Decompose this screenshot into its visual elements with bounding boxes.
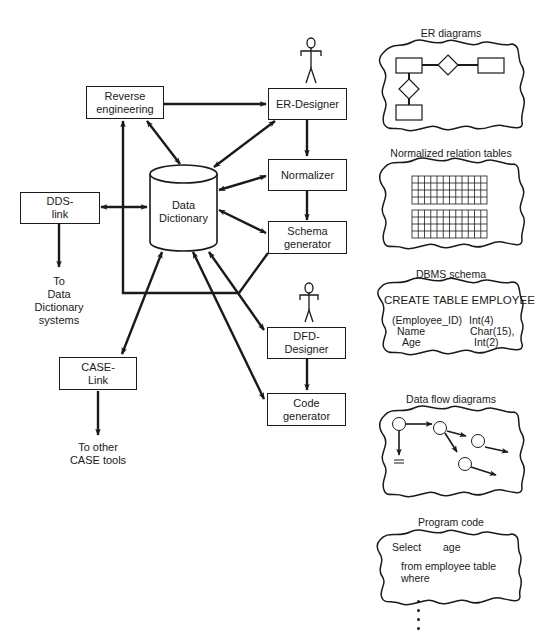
- data-dictionary-label-1: Data: [150, 199, 217, 212]
- normalizer-box: Normalizer: [268, 159, 347, 191]
- actor-er-user-icon: [301, 38, 321, 83]
- dds-link-label-1: DDS-: [47, 195, 74, 208]
- dds-link-box: DDS-link: [20, 192, 100, 224]
- dbms-schema-title: DBMS schema: [378, 268, 524, 280]
- program-code-select: Select: [392, 541, 421, 553]
- schema-generator-label-2: generator: [284, 238, 331, 251]
- case-link-label-1: CASE-: [81, 361, 115, 374]
- er-diagrams-title: ER diagrams: [378, 27, 524, 39]
- dds-target-line-3: Dictionary: [24, 301, 94, 314]
- schema-type-2: Int(2): [474, 336, 499, 348]
- program-code-from: from employee table: [401, 560, 496, 572]
- dfd-designer-label-2: Designer: [284, 343, 328, 356]
- reverse-engineering-box: Reverseengineering: [86, 86, 164, 119]
- arrow-reverse-dd: [147, 121, 180, 164]
- er-designer-label: ER-Designer: [276, 98, 339, 111]
- dfd-designer-box: DFD-Designer: [267, 327, 346, 359]
- data-flow-diagrams-title: Data flow diagrams: [378, 393, 524, 405]
- data-dictionary-label: Data Dictionary: [150, 199, 217, 225]
- dds-target-line-4: systems: [24, 314, 94, 327]
- arrow-schema-dd: [219, 210, 266, 233]
- data-dictionary-label-2: Dictionary: [150, 212, 217, 225]
- case-link-box: CASE-Link: [59, 357, 137, 390]
- code-generator-box: Codegenerator: [267, 393, 346, 426]
- arrow-normalizer-dd: [219, 176, 266, 190]
- normalized-tables-title: Normalized relation tables: [378, 147, 524, 159]
- dds-target-label: To Data Dictionary systems: [24, 275, 94, 327]
- case-target-label: To other CASE tools: [60, 441, 136, 467]
- case-target-line-1: To other: [60, 441, 136, 454]
- arrow-dfd-dd: [209, 252, 264, 330]
- arrow-er-dd: [214, 121, 275, 167]
- er-designer-box: ER-Designer: [268, 88, 347, 120]
- schema-generator-label-1: Schema: [284, 225, 331, 238]
- actor-dfd-user-icon: [300, 283, 318, 322]
- reverse-engineering-label-2: engineering: [96, 103, 154, 116]
- normalizer-label: Normalizer: [281, 169, 334, 182]
- dbms-schema-header: CREATE TABLE EMPLOYEE: [384, 294, 535, 306]
- arrow-case-dd: [122, 252, 162, 354]
- code-generator-label-1: Code: [283, 397, 330, 410]
- case-link-label-2: Link: [81, 374, 115, 387]
- dfd-designer-label-1: DFD-: [284, 330, 328, 343]
- schema-col-2: Age: [402, 336, 421, 348]
- continuation-dots: [417, 600, 421, 630]
- reverse-engineering-label-1: Reverse: [96, 90, 154, 103]
- schema-generator-box: Schemagenerator: [268, 221, 347, 254]
- program-code-where: where: [401, 572, 430, 584]
- dds-link-label-2: link: [47, 208, 74, 221]
- code-generator-label-2: generator: [283, 410, 330, 423]
- dds-target-line-2: Data: [24, 288, 94, 301]
- dds-target-line-1: To: [24, 275, 94, 288]
- case-target-line-2: CASE tools: [60, 454, 136, 467]
- program-code-select-value: age: [443, 541, 461, 553]
- program-code-title: Program code: [378, 516, 524, 528]
